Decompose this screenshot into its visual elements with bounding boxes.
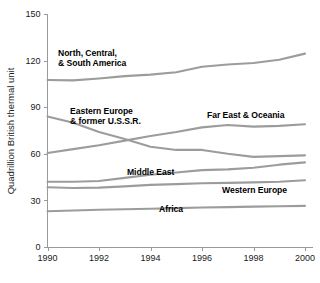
x-tick-label: 1996 [192, 253, 212, 263]
western-europe-label: Western Europe [222, 185, 287, 195]
y-tick-label: 90 [30, 102, 40, 112]
y-tick-label: 150 [25, 9, 40, 19]
far-east-oceania-label: Far East & Oceania [207, 110, 284, 120]
x-tick-label: 1994 [140, 253, 160, 263]
chart-canvas: 0306090120150 199019921994199619982000 Q… [0, 0, 320, 283]
y-tick-label: 60 [30, 149, 40, 159]
north-central-south-america-label: North, Central, & South America [58, 48, 126, 68]
y-axis: 0306090120150 [25, 9, 47, 252]
series-line-middle-east [48, 162, 306, 181]
series-line-far-east-oceania [48, 124, 306, 153]
x-tick-label: 1998 [243, 253, 263, 263]
x-tick-label: 1990 [37, 253, 57, 263]
y-tick-label: 120 [25, 56, 40, 66]
line-chart: 0306090120150 199019921994199619982000 Q… [0, 0, 320, 283]
eastern-europe-label: Eastern Europe & former U.S.S.R. [70, 106, 141, 126]
middle-east-label: Middle East [127, 167, 174, 177]
y-axis-title: Quadrillion British thermal unit [5, 67, 16, 194]
y-tick-label: 30 [30, 196, 40, 206]
x-tick-label: 1992 [89, 253, 109, 263]
y-tick-label: 0 [35, 242, 40, 252]
x-axis: 199019921994199619982000 [37, 247, 315, 263]
africa-label: Africa [159, 204, 183, 214]
x-tick-label: 2000 [295, 253, 315, 263]
